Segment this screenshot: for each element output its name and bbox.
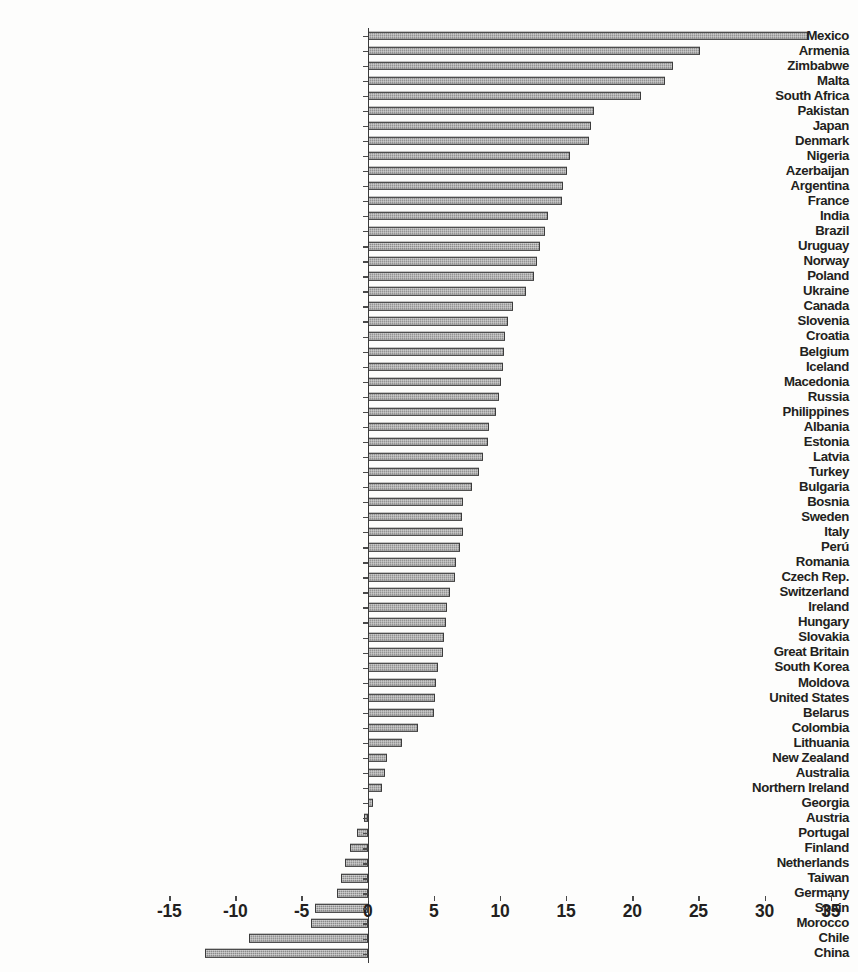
bar (368, 362, 503, 370)
bar (368, 648, 443, 656)
category-label: Norway (500, 255, 858, 268)
bar (368, 784, 383, 792)
chart-row: South Africa (0, 88, 858, 103)
category-tick (363, 382, 368, 383)
chart-row: Iceland (0, 359, 858, 374)
category-label: Bosnia (500, 495, 858, 508)
x-axis-tick (301, 896, 302, 901)
chart-row: Japan (0, 118, 858, 133)
category-label: Canada (500, 300, 858, 313)
chart-row: Bosnia (0, 494, 858, 509)
category-tick (363, 96, 368, 97)
chart-row: Azerbaijan (0, 163, 858, 178)
category-tick (363, 171, 368, 172)
category-label: France (500, 194, 858, 207)
bar (368, 723, 418, 731)
bar (368, 633, 445, 641)
bar (368, 528, 463, 536)
category-tick (363, 562, 368, 563)
chart-row: Germany (0, 886, 858, 901)
chart-row: Slovakia (0, 630, 858, 645)
bar (311, 919, 368, 927)
chart-row: China (0, 946, 858, 961)
category-label: Italy (500, 525, 858, 538)
category-tick (363, 457, 368, 458)
category-tick (363, 577, 368, 578)
x-axis-tick (368, 896, 369, 901)
category-label: Zimbabwe (500, 59, 858, 72)
category-label: Germany (500, 887, 858, 900)
chart-row: Sweden (0, 510, 858, 525)
chart-row: Belarus (0, 705, 858, 720)
bar (368, 302, 514, 310)
category-tick (363, 111, 368, 112)
category-tick (363, 773, 368, 774)
category-label: Belgium (500, 345, 858, 358)
category-label: Russia (500, 390, 858, 403)
category-tick (363, 954, 368, 955)
category-tick (363, 261, 368, 262)
x-axis-tick-label: -15 (157, 901, 181, 922)
category-tick (363, 216, 368, 217)
chart-row: Albania (0, 419, 858, 434)
category-label: Croatia (500, 330, 858, 343)
chart-row: Australia (0, 765, 858, 780)
chart-row: Great Britain (0, 645, 858, 660)
category-tick (363, 698, 368, 699)
category-tick (363, 728, 368, 729)
chart-row: Bulgaria (0, 479, 858, 494)
bar (249, 934, 368, 942)
category-tick (363, 638, 368, 639)
category-label: Moldova (500, 676, 858, 689)
category-tick (363, 668, 368, 669)
category-tick (363, 126, 368, 127)
category-label: South Africa (500, 89, 858, 102)
bar-chart: MexicoArmeniaZimbabweMaltaSouth AfricaPa… (0, 0, 858, 972)
chart-row: Turkey (0, 464, 858, 479)
bar (368, 453, 483, 461)
category-tick (363, 201, 368, 202)
chart-row: Romania (0, 555, 858, 570)
category-label: Denmark (500, 134, 858, 147)
category-label: Albania (500, 420, 858, 433)
x-axis-tick-label: 35 (821, 901, 840, 922)
chart-row: Latvia (0, 449, 858, 464)
category-tick (363, 231, 368, 232)
category-label: Bulgaria (500, 480, 858, 493)
zero-axis-line (368, 28, 370, 963)
category-label: Armenia (500, 44, 858, 57)
chart-row: Armenia (0, 43, 858, 58)
category-label: Chile (500, 932, 858, 945)
x-axis-tick (698, 896, 699, 901)
category-tick (363, 758, 368, 759)
bar (368, 558, 457, 566)
chart-row: Estonia (0, 434, 858, 449)
chart-row: Austria (0, 810, 858, 825)
category-label: United States (500, 691, 858, 704)
bar (368, 618, 446, 626)
category-label: Ukraine (500, 285, 858, 298)
x-axis-tick-label: -5 (294, 901, 309, 922)
category-label: Netherlands (500, 856, 858, 869)
category-label: Iceland (500, 360, 858, 373)
chart-row: Zimbabwe (0, 58, 858, 73)
category-tick (363, 81, 368, 82)
chart-row: Pakistan (0, 103, 858, 118)
category-label: Latvia (500, 450, 858, 463)
category-tick (363, 337, 368, 338)
category-label: South Korea (500, 661, 858, 674)
category-tick (363, 306, 368, 307)
chart-row: Colombia (0, 720, 858, 735)
category-label: Finland (500, 841, 858, 854)
chart-row: Lithuania (0, 735, 858, 750)
category-label: Belarus (500, 706, 858, 719)
chart-row: Belgium (0, 344, 858, 359)
chart-row: Taiwan (0, 871, 858, 886)
category-label: Malta (500, 74, 858, 87)
category-tick (363, 713, 368, 714)
bar (368, 573, 455, 581)
category-label: Lithuania (500, 736, 858, 749)
category-label: Switzerland (500, 586, 858, 599)
x-axis-tick-label: 20 (623, 901, 642, 922)
bar (205, 949, 368, 957)
